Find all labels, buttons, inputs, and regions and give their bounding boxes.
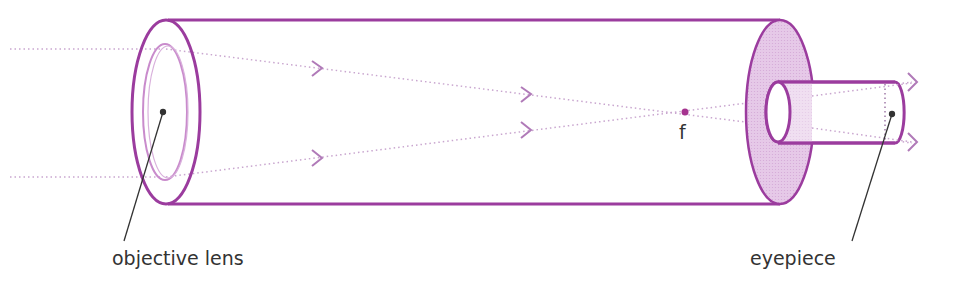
eyepiece-label: eyepiece xyxy=(750,247,836,269)
focal-point-label: f xyxy=(679,121,686,143)
focal-point-marker xyxy=(682,109,689,116)
objective-lens-label: objective lens xyxy=(112,247,244,269)
